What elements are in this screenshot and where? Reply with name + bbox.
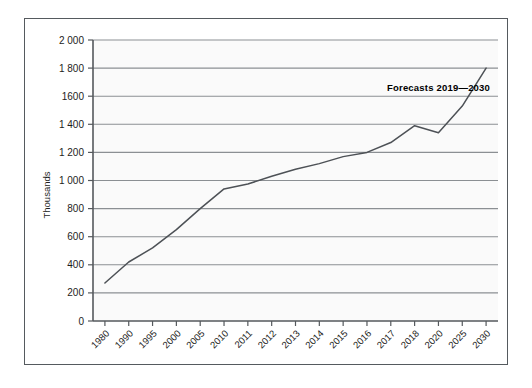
forecast-annotation: Forecasts 2019—2030 bbox=[387, 82, 490, 93]
x-axis-tick-label: 1995 bbox=[136, 328, 159, 351]
y-axis-tick-label: 800 bbox=[67, 203, 84, 214]
x-axis-tick-label: 2000 bbox=[160, 328, 183, 351]
y-axis-tick-label: 1 800 bbox=[59, 63, 84, 74]
x-axis-tick-label: 2030 bbox=[470, 328, 493, 351]
y-axis-tick-label: 400 bbox=[67, 259, 84, 270]
x-axis-tick-label: 2016 bbox=[351, 328, 374, 351]
y-axis-tick-label: 2 000 bbox=[59, 35, 84, 46]
y-axis-tick-label: 1 200 bbox=[59, 147, 84, 158]
x-axis-tick-label: 2013 bbox=[279, 328, 302, 351]
x-axis-tick-label: 2025 bbox=[446, 328, 469, 351]
y-axis-tick-labels-group: 2 0001 80016001 4001 2001 00080060040020… bbox=[59, 35, 84, 327]
y-axis-tick-label: 1 000 bbox=[59, 175, 84, 186]
x-axis-tick-label: 1990 bbox=[112, 328, 135, 351]
line-chart-svg: 2 0001 80016001 4001 2001 00080060040020… bbox=[0, 0, 532, 388]
y-axis-tick-label: 0 bbox=[78, 316, 84, 327]
x-axis-tick-labels-group: 1980199019952000200520102011201220132014… bbox=[89, 328, 493, 351]
y-axis-tick-label: 1600 bbox=[62, 91, 85, 102]
x-axis-tick-label: 2015 bbox=[327, 328, 350, 351]
y-axis-tick-label: 1 400 bbox=[59, 119, 84, 130]
y-axis-title: Thousands bbox=[41, 171, 52, 218]
x-axis-tick-label: 2017 bbox=[374, 328, 397, 351]
x-axis-tick-label: 2005 bbox=[184, 328, 207, 351]
plot-wrapper: 2 0001 80016001 4001 2001 00080060040020… bbox=[0, 0, 532, 388]
axis-title-group: Thousands bbox=[41, 171, 52, 218]
x-axis-tick-label: 2020 bbox=[422, 328, 445, 351]
annotations-group: Forecasts 2019—2030 bbox=[387, 82, 490, 93]
y-axis-tick-label: 200 bbox=[67, 287, 84, 298]
x-axis-tick-label: 2012 bbox=[255, 328, 278, 351]
x-axis-tick-label: 2010 bbox=[208, 328, 231, 351]
y-axis-tick-label: 600 bbox=[67, 231, 84, 242]
x-axis-tick-label: 1980 bbox=[89, 328, 112, 351]
x-axis-tick-label: 2014 bbox=[303, 328, 326, 351]
chart-figure: 2 0001 80016001 4001 2001 00080060040020… bbox=[0, 0, 532, 388]
x-axis-tick-label: 2018 bbox=[398, 328, 421, 351]
x-axis-tick-label: 2011 bbox=[232, 328, 254, 350]
